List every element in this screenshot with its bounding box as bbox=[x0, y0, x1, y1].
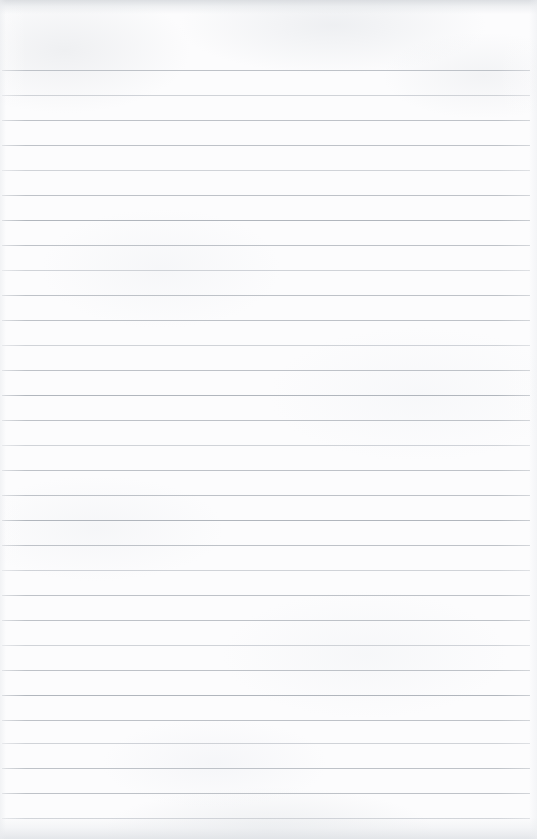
rule-line bbox=[2, 370, 530, 371]
rule-line bbox=[2, 195, 530, 196]
rule-line bbox=[2, 595, 530, 596]
rule-line bbox=[2, 645, 530, 646]
rule-line bbox=[2, 720, 530, 721]
scan-edge-shadow-top bbox=[0, 0, 537, 14]
rule-line bbox=[2, 620, 530, 621]
rule-line bbox=[2, 245, 530, 246]
rule-line bbox=[2, 445, 530, 446]
rule-line bbox=[2, 495, 530, 496]
rule-line bbox=[2, 670, 530, 671]
rule-line bbox=[2, 743, 530, 744]
rule-line bbox=[2, 695, 530, 696]
rule-line bbox=[2, 545, 530, 546]
scan-edge-shadow-right bbox=[529, 0, 537, 839]
scan-edge-shadow-left bbox=[0, 0, 6, 839]
rule-line bbox=[2, 170, 530, 171]
rule-line bbox=[2, 520, 530, 521]
rule-line bbox=[2, 70, 530, 71]
rule-line bbox=[2, 320, 530, 321]
rule-line bbox=[2, 220, 530, 221]
rule-line bbox=[2, 345, 530, 346]
paper-background bbox=[0, 0, 537, 839]
rule-line bbox=[2, 120, 530, 121]
scanned-page bbox=[0, 0, 537, 839]
rule-line bbox=[2, 420, 530, 421]
rule-line bbox=[2, 793, 530, 794]
rule-line bbox=[2, 768, 530, 769]
rule-line bbox=[2, 470, 530, 471]
rule-line bbox=[2, 95, 530, 96]
rule-line bbox=[2, 295, 530, 296]
rule-line bbox=[2, 395, 530, 396]
rule-edge-fade-overlay bbox=[0, 0, 537, 839]
rule-line bbox=[2, 270, 530, 271]
rule-line bbox=[2, 570, 530, 571]
scan-edge-shadow-bottom bbox=[0, 817, 537, 839]
ruled-lines-layer bbox=[0, 0, 537, 839]
rule-line bbox=[2, 145, 530, 146]
rule-line bbox=[2, 818, 530, 819]
